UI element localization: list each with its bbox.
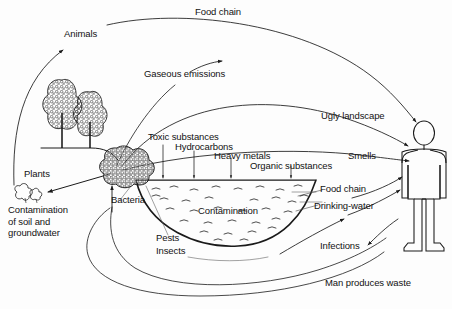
label-bacteria: Bacteria — [111, 194, 145, 205]
leader-pests — [146, 186, 168, 235]
tree-group — [43, 79, 107, 148]
label-pests: Pests — [156, 232, 179, 243]
human-figure — [402, 121, 446, 251]
label-food-chain-right: Food chain — [320, 183, 366, 194]
label-ugly-landscape: Ugly landscape — [321, 110, 385, 121]
leader-insects — [188, 257, 268, 261]
label-insects: Insects — [156, 245, 185, 256]
label-man-produces-waste: Man produces waste — [325, 277, 411, 288]
waste-pile — [100, 146, 155, 188]
tree-right — [74, 91, 108, 148]
plant-sprouts — [15, 184, 42, 203]
label-organic-substances: Organic substances — [250, 160, 332, 171]
flow-soil-groundwater — [48, 174, 110, 192]
label-contamination-soil-groundwater: Contamination of soil and groundwater — [8, 204, 68, 239]
label-contamination-pit: Contamination — [198, 205, 258, 216]
label-plants: Plants — [24, 168, 50, 179]
label-infections: Infections — [320, 240, 360, 251]
label-animals: Animals — [64, 28, 97, 39]
flow-human-to-infections — [368, 219, 398, 245]
label-smells: Smells — [348, 150, 376, 161]
pollution-diagram: Food chain Animals Gaseous emissions Ugl… — [0, 0, 452, 309]
label-drinking-water: Drinking-water — [314, 200, 374, 211]
label-gaseous-emissions: Gaseous emissions — [144, 68, 225, 79]
label-food-chain-top: Food chain — [195, 6, 241, 17]
